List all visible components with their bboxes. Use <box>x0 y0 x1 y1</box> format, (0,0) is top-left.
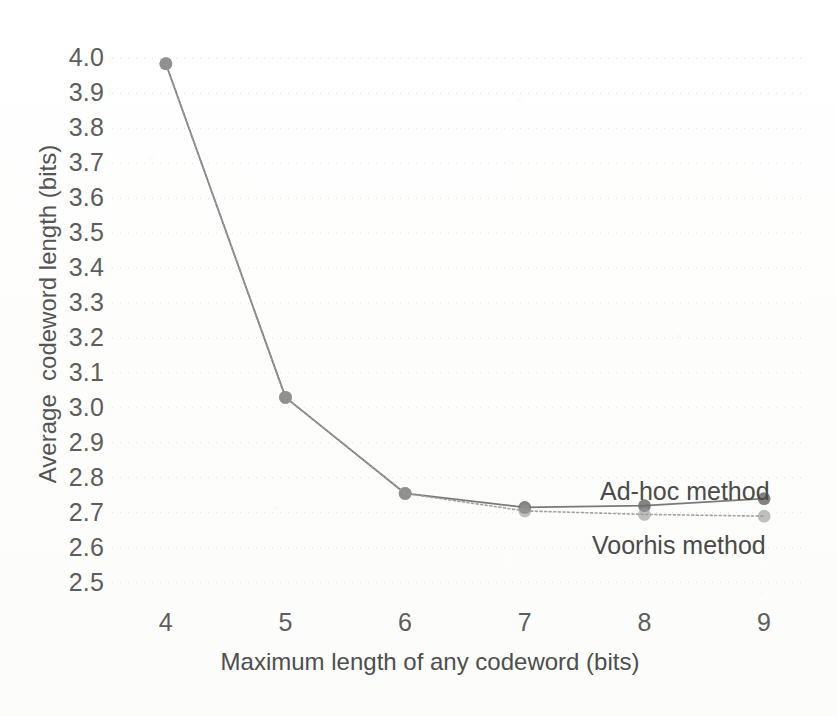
data-point-marker <box>159 57 172 70</box>
data-point-marker <box>638 508 651 521</box>
series-line-1 <box>166 64 764 516</box>
data-point-marker <box>758 510 771 523</box>
data-point-marker <box>279 391 292 404</box>
x-axis-title: Maximum length of any codeword (bits) <box>150 648 710 676</box>
series-layer <box>159 57 770 522</box>
series-label-voorhis-method: Voorhis method <box>592 531 766 560</box>
series-label-ad-hoc-method: Ad-hoc method <box>600 477 770 506</box>
data-point-marker <box>518 505 531 518</box>
chart-page: Average codeword length (bits) 2.52.62.7… <box>0 0 837 716</box>
series-line-0 <box>166 64 764 508</box>
plot-area <box>0 0 837 716</box>
data-point-marker <box>399 487 412 500</box>
